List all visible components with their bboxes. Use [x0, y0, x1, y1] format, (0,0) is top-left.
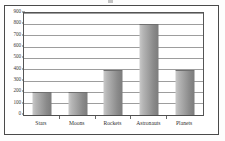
x-tick-label-planets: Planets	[176, 120, 192, 127]
y-tick-label-200: 200	[14, 89, 21, 94]
y-tick-label-300: 300	[14, 77, 21, 82]
bar-stars	[32, 92, 51, 115]
x-tick-label-moons: Moons	[69, 120, 85, 127]
x-tick-mark	[166, 116, 167, 119]
y-tick-label-700: 700	[14, 32, 21, 37]
y-tick-label-0: 0	[19, 111, 22, 116]
x-tick-mark	[95, 116, 96, 119]
y-tick-label-600: 600	[14, 43, 21, 48]
x-tick-label-astronauts: Astronauts	[136, 120, 160, 127]
bar-astronauts	[140, 24, 159, 115]
bars-layer	[24, 13, 203, 115]
bar-planets	[176, 70, 195, 115]
bar-slot	[24, 13, 60, 115]
x-tick-mark	[130, 116, 131, 119]
x-tick-mark	[59, 116, 60, 119]
bar-slot	[131, 13, 167, 115]
y-tick-label-100: 100	[14, 100, 21, 105]
x-tick-label-stars: Stars	[35, 120, 46, 127]
bar-slot	[60, 13, 96, 115]
bar-slot	[96, 13, 132, 115]
bar-chart-figure: 0100200300400500600700800900 StarsMoonsR…	[0, 0, 225, 141]
bar-slot	[167, 13, 203, 115]
bar-moons	[68, 92, 87, 115]
y-tick-label-400: 400	[14, 66, 21, 71]
y-tick-label-500: 500	[14, 55, 21, 60]
plot-area	[23, 12, 204, 116]
y-axis-tick-labels: 0100200300400500600700800900	[4, 12, 22, 116]
y-tick-label-900: 900	[14, 9, 21, 14]
scan-artifact-mark	[108, 0, 113, 3]
y-tick-label-800: 800	[14, 21, 21, 26]
x-tick-label-rockets: Rockets	[103, 120, 121, 127]
x-axis-category-labels: StarsMoonsRocketsAstronautsPlanets	[23, 120, 204, 132]
bar-rockets	[104, 70, 123, 115]
